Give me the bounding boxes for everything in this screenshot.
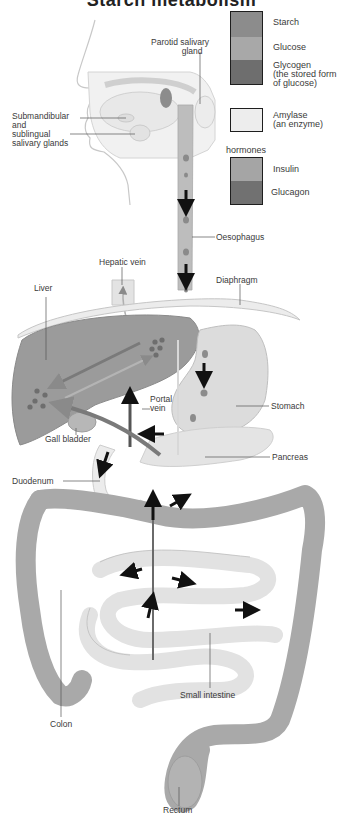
legend-hormones-heading: hormones	[226, 146, 266, 155]
legend-swatch-hormones	[230, 157, 263, 205]
swatch-glucagon	[231, 181, 262, 204]
label-hepatic-vein: Hepatic vein	[99, 258, 146, 267]
legend-label-insulin: Insulin	[273, 165, 299, 174]
legend-swatch-carbohydrates	[230, 11, 263, 85]
label-portal-vein: Portal vein	[150, 395, 172, 413]
label-stomach: Stomach	[271, 402, 305, 411]
label-colon: Colon	[50, 720, 72, 729]
label-duodenum: Duodenum	[12, 477, 54, 486]
label-parotid-gland: Parotid salivary gland	[151, 38, 209, 56]
legend-label-glucose: Glucose	[273, 43, 306, 52]
swatch-insulin	[231, 158, 262, 181]
legend-label-amylase: Amylase (an enzyme)	[273, 111, 323, 129]
legend-label-glucagon: Glucagon	[271, 188, 310, 197]
oesophagus-tube	[178, 105, 193, 293]
liver	[12, 315, 199, 445]
swatch-glycogen	[231, 60, 262, 84]
label-diaphragm: Diaphragm	[216, 276, 258, 285]
legend-label-starch: Starch	[273, 18, 299, 27]
label-small-intestine: Small intestine	[180, 691, 235, 700]
label-liver: Liver	[34, 284, 52, 293]
rectum	[168, 756, 202, 808]
label-rectum: Rectum	[163, 806, 192, 815]
label-oesophagus: Oesophagus	[216, 233, 264, 242]
swatch-glucose	[231, 37, 262, 60]
swatch-amylase	[230, 108, 263, 132]
label-pancreas: Pancreas	[272, 453, 308, 462]
legend-label-glycogen: Glycogen (the stored form of glucose)	[273, 61, 337, 88]
label-gall-bladder: Gall bladder	[45, 435, 91, 444]
label-submandibular-glands: Submandibular and sublingual salivary gl…	[12, 112, 69, 148]
swatch-starch	[231, 12, 262, 37]
colon	[40, 495, 315, 802]
